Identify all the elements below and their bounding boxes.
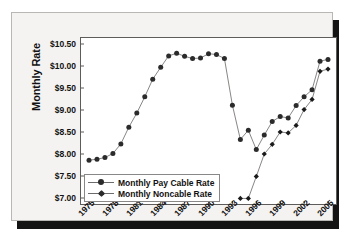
data-point xyxy=(302,94,307,99)
data-point xyxy=(317,69,322,74)
data-point xyxy=(270,119,275,124)
data-point xyxy=(230,103,235,108)
data-point xyxy=(87,158,92,163)
y-axis-tick-label: $9.00 xyxy=(32,105,76,115)
legend-item-pay-cable: Monthly Pay Cable Rate xyxy=(88,177,214,188)
chart-card: Monthly Rate $10.50$10.00$9.50$9.00$8.50… xyxy=(11,12,333,221)
data-point xyxy=(238,196,243,201)
data-point xyxy=(142,94,147,99)
legend-item-label: Monthly Pay Cable Rate xyxy=(114,178,214,188)
series-line xyxy=(89,53,328,160)
data-point xyxy=(318,59,323,64)
y-axis-tick-labels: $10.50$10.00$9.50$9.00$8.50$8.00$7.50$7.… xyxy=(31,37,76,205)
data-point xyxy=(262,133,267,138)
data-point xyxy=(286,115,291,120)
data-point xyxy=(278,129,283,134)
data-point xyxy=(326,57,331,62)
y-axis-tick-label: $7.00 xyxy=(32,193,76,203)
data-point xyxy=(118,141,123,146)
y-axis-tick-label: $8.00 xyxy=(32,149,76,159)
y-axis-tick-label: $9.50 xyxy=(32,83,76,93)
diamond-marker-icon xyxy=(88,188,114,199)
chart-legend: Monthly Pay Cable Rate Monthly Noncable … xyxy=(84,174,220,202)
chart-screenshot: Monthly Rate $10.50$10.00$9.50$9.00$8.50… xyxy=(0,0,344,245)
data-point xyxy=(214,52,219,57)
data-point xyxy=(134,111,139,116)
y-axis-tick-label: $8.50 xyxy=(32,127,76,137)
data-point xyxy=(150,77,155,82)
data-point xyxy=(246,128,251,133)
y-axis-tick-label: $10.50 xyxy=(32,39,76,49)
data-point xyxy=(110,151,115,156)
data-point xyxy=(246,196,251,201)
data-point xyxy=(254,147,259,152)
x-axis-tick-labels: 1975197819811984198719901993199619992002… xyxy=(80,208,337,242)
data-point xyxy=(94,157,99,162)
y-axis-tick-label: $7.50 xyxy=(32,171,76,181)
legend-item-label: Monthly Noncable Rate xyxy=(114,189,212,199)
legend-item-noncable: Monthly Noncable Rate xyxy=(88,188,214,199)
data-point xyxy=(294,103,299,108)
data-point xyxy=(254,174,259,179)
data-point xyxy=(190,56,195,61)
data-point xyxy=(222,56,227,61)
data-point xyxy=(126,125,131,130)
data-point xyxy=(310,87,315,92)
data-point xyxy=(325,66,330,71)
circle-marker-icon xyxy=(88,177,114,188)
data-point xyxy=(278,114,283,119)
data-point xyxy=(158,65,163,70)
y-axis-tick-label: $10.00 xyxy=(32,61,76,71)
data-point xyxy=(166,53,171,58)
series-line xyxy=(240,69,328,198)
data-point xyxy=(102,155,107,160)
data-point xyxy=(206,51,211,56)
data-point xyxy=(238,137,243,142)
data-point xyxy=(174,51,179,56)
data-point xyxy=(198,56,203,61)
data-point xyxy=(182,54,187,59)
